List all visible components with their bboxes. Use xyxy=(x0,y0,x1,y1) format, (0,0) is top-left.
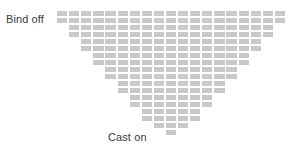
stitch-cell xyxy=(190,60,200,65)
stitch-cell xyxy=(202,11,212,16)
stitch-cell xyxy=(178,88,188,93)
stitch-cell xyxy=(81,39,91,44)
stitch-cell xyxy=(202,60,212,65)
stitch-cell xyxy=(154,18,164,23)
stitch-row xyxy=(57,18,288,25)
stitch-row xyxy=(57,32,288,39)
stitch-cell xyxy=(118,11,128,16)
stitch-cell xyxy=(142,88,152,93)
stitch-row xyxy=(57,74,288,81)
stitch-cell xyxy=(166,74,176,79)
stitch-cell xyxy=(202,102,212,107)
stitch-cell xyxy=(226,46,236,51)
stitch-cell xyxy=(142,81,152,86)
stitch-cell xyxy=(263,25,273,30)
stitch-cell xyxy=(214,67,224,72)
stitch-cell xyxy=(202,39,212,44)
stitch-cell xyxy=(190,39,200,44)
stitch-cell xyxy=(239,46,249,51)
stitch-cell xyxy=(130,74,140,79)
stitch-cell xyxy=(178,95,188,100)
stitch-cell xyxy=(190,18,200,23)
stitch-cell xyxy=(178,25,188,30)
stitch-cell xyxy=(118,25,128,30)
stitch-cell xyxy=(202,67,212,72)
stitch-cell xyxy=(105,11,115,16)
stitch-cell xyxy=(105,32,115,37)
stitch-row xyxy=(57,88,288,95)
stitch-cell xyxy=(178,102,188,107)
stitch-cell xyxy=(178,123,188,128)
stitch-cell xyxy=(142,74,152,79)
stitch-cell xyxy=(239,32,249,37)
stitch-cell xyxy=(214,25,224,30)
stitch-cell xyxy=(69,32,79,37)
stitch-cell xyxy=(166,116,176,121)
stitch-cell xyxy=(166,60,176,65)
stitch-cell xyxy=(178,18,188,23)
stitch-cell xyxy=(190,32,200,37)
stitch-cell xyxy=(190,81,200,86)
stitch-row xyxy=(57,25,288,32)
stitch-cell xyxy=(154,32,164,37)
stitch-cell xyxy=(81,32,91,37)
stitch-cell xyxy=(154,102,164,107)
stitch-cell xyxy=(202,18,212,23)
stitch-cell xyxy=(251,18,261,23)
stitch-row xyxy=(57,130,288,137)
stitch-cell xyxy=(178,74,188,79)
stitch-cell xyxy=(226,67,236,72)
stitch-row xyxy=(57,116,288,123)
stitch-cell xyxy=(178,60,188,65)
stitch-cell xyxy=(93,32,103,37)
stitch-grid xyxy=(57,11,288,137)
stitch-cell xyxy=(239,11,249,16)
stitch-cell xyxy=(142,25,152,30)
stitch-cell xyxy=(178,46,188,51)
stitch-cell xyxy=(105,60,115,65)
stitch-cell xyxy=(130,95,140,100)
stitch-row xyxy=(57,109,288,116)
stitch-cell xyxy=(105,46,115,51)
stitch-cell xyxy=(118,67,128,72)
stitch-cell xyxy=(166,46,176,51)
stitch-cell xyxy=(130,46,140,51)
stitch-cell xyxy=(214,53,224,58)
stitch-cell xyxy=(226,18,236,23)
stitch-cell xyxy=(263,32,273,37)
stitch-cell xyxy=(154,116,164,121)
stitch-cell xyxy=(81,25,91,30)
stitch-row xyxy=(57,123,288,130)
stitch-cell xyxy=(142,109,152,114)
stitch-cell xyxy=(178,53,188,58)
stitch-cell xyxy=(226,11,236,16)
stitch-cell xyxy=(166,130,176,135)
stitch-cell xyxy=(166,109,176,114)
stitch-cell xyxy=(130,81,140,86)
stitch-cell xyxy=(263,18,273,23)
stitch-row xyxy=(57,39,288,46)
stitch-cell xyxy=(154,46,164,51)
stitch-cell xyxy=(142,116,152,121)
stitch-cell xyxy=(93,39,103,44)
stitch-cell xyxy=(178,39,188,44)
stitch-cell xyxy=(166,25,176,30)
stitch-cell xyxy=(166,67,176,72)
stitch-cell xyxy=(166,18,176,23)
stitch-cell xyxy=(142,39,152,44)
stitch-cell xyxy=(154,88,164,93)
stitch-cell xyxy=(142,11,152,16)
stitch-cell xyxy=(142,95,152,100)
stitch-cell xyxy=(154,60,164,65)
stitch-cell xyxy=(239,60,249,65)
stitch-cell xyxy=(69,11,79,16)
stitch-cell xyxy=(178,67,188,72)
stitch-cell xyxy=(190,116,200,121)
stitch-cell xyxy=(142,60,152,65)
stitch-cell xyxy=(190,53,200,58)
stitch-cell xyxy=(130,32,140,37)
stitch-cell xyxy=(142,46,152,51)
stitch-cell xyxy=(239,53,249,58)
stitch-cell xyxy=(202,81,212,86)
stitch-cell xyxy=(105,18,115,23)
